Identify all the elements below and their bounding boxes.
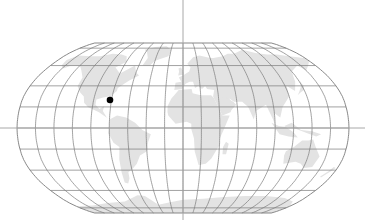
land-north-america xyxy=(62,54,140,120)
land-indonesia xyxy=(271,123,321,138)
land-australia xyxy=(283,140,319,168)
land-madagascar xyxy=(223,142,229,155)
land-south-america xyxy=(108,115,150,183)
location-marker[interactable] xyxy=(107,97,114,104)
land-new-zealand xyxy=(320,167,336,177)
marker-layer[interactable] xyxy=(107,97,114,104)
world-map[interactable] xyxy=(0,0,365,220)
